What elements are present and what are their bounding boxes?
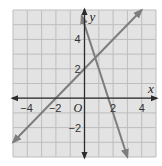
x-tick-label: 4	[139, 102, 145, 114]
y-tick-label: −2	[69, 122, 82, 134]
y-tick-label: 4	[75, 33, 81, 45]
y-axis-label: y	[88, 9, 96, 24]
coordinate-graph: −4−22442−2Oxy	[0, 0, 162, 166]
x-tick-label: −2	[49, 102, 62, 114]
x-tick-label: 2	[110, 102, 116, 114]
origin-label: O	[74, 101, 83, 115]
x-axis-label: x	[147, 81, 154, 96]
x-tick-label: −4	[20, 102, 33, 114]
y-tick-label: 2	[75, 63, 81, 75]
